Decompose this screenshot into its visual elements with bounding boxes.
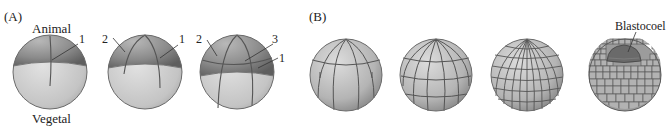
panel-a-label: (A) [4,10,22,23]
furrow-label-2: 2 [196,33,202,45]
embryo-8-cell [200,30,278,109]
embryo-morula [491,39,563,111]
animal-pole-label: Animal [32,22,71,35]
furrow-label-1: 1 [79,33,85,45]
embryo-2-cell [13,30,87,109]
embryo-32-cell [400,39,472,111]
furrow-label-1: 1 [179,33,185,45]
embryo-blastula [589,32,663,111]
embryo-4-cell [108,30,182,109]
furrow-label-2: 2 [102,33,108,45]
embryo-16-cell [310,39,382,111]
blastocoel-label: Blastocoel [615,20,666,32]
vegetal-pole-label: Vegetal [32,112,71,125]
furrow-label-3: 3 [272,33,278,45]
furrow-label-1: 1 [279,52,285,64]
panel-b-label: (B) [309,10,326,23]
